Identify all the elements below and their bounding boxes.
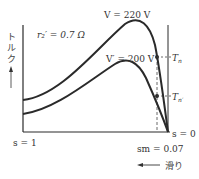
y-axis-label-char-3: ク	[7, 54, 16, 64]
slip-direction-label: 滑り	[165, 161, 183, 171]
torque-slip-diagram: ト ル ク r₂′ = 0.7 Ω V = 220 V V′ = 200 V T…	[0, 0, 199, 179]
slip-arrow-icon	[137, 163, 143, 167]
y-axis-arrow-icon	[9, 66, 13, 72]
tn-label-sub: n	[178, 57, 182, 64]
curve-v200	[23, 60, 168, 132]
tn-prime-label-sub: n′	[178, 96, 184, 103]
slip-marker-label: sm = 0.07	[137, 144, 184, 154]
curve-label-v200: V′ = 200 V	[105, 54, 155, 64]
curve-label-v220: V = 220 V	[103, 10, 151, 20]
tn-prime-label: Tn′	[172, 92, 184, 103]
tn-label: Tn	[172, 53, 182, 64]
resistance-label: r₂′ = 0.7 Ω	[37, 30, 85, 40]
y-axis-label-char-2: ル	[7, 43, 16, 53]
y-axis-label-char-1: ト	[7, 32, 16, 42]
slip-left-label: s = 1	[13, 138, 37, 148]
slip-right-label: s = 0	[172, 129, 196, 139]
